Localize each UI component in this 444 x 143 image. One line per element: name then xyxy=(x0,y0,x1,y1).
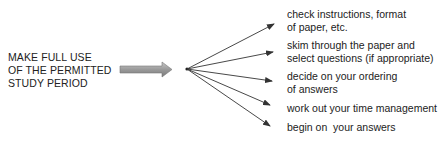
item-time-management: work out your time management xyxy=(287,102,437,115)
item-line: begin on your answers xyxy=(287,121,396,134)
item-line: of paper, etc. xyxy=(287,21,406,34)
item-decide-ordering: decide on your ordering of answers xyxy=(287,70,397,96)
item-line: skim through the paper and xyxy=(287,39,434,52)
arrow-4-icon xyxy=(187,69,270,105)
item-begin-answers: begin on your answers xyxy=(287,121,396,134)
item-line: check instructions, format xyxy=(287,8,406,21)
arrow-2-icon xyxy=(187,52,273,69)
item-line: select questions (if appropriate) xyxy=(287,52,434,65)
arrow-1-icon xyxy=(187,24,274,69)
item-line: decide on your ordering xyxy=(287,70,397,83)
item-line: of answers xyxy=(287,83,397,96)
arrow-5-icon xyxy=(187,69,270,126)
block-arrow-icon xyxy=(120,62,172,77)
item-check-instructions: check instructions, format of paper, etc… xyxy=(287,8,406,34)
item-skim-paper: skim through the paper and select questi… xyxy=(287,39,434,65)
fan-arrows xyxy=(187,24,274,126)
item-line: work out your time management xyxy=(287,102,437,115)
